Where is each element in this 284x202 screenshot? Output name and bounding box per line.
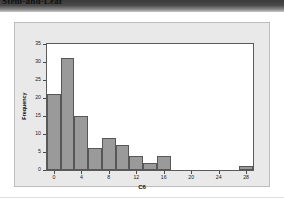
x-tick-label: 0: [52, 175, 55, 180]
x-tick-mark: [54, 171, 55, 174]
histogram-bar: [102, 138, 116, 170]
y-tick-mark: [43, 152, 46, 153]
plot-area: [46, 43, 254, 171]
y-tick-mark: [43, 44, 46, 45]
x-tick-label: 12: [133, 175, 139, 180]
chart-panel: 05101520253035 0481216202428 Frequency C…: [14, 22, 270, 187]
histogram-bar: [61, 58, 75, 170]
x-tick-mark: [191, 171, 192, 174]
x-tick-label: 20: [188, 175, 194, 180]
y-tick-mark: [43, 62, 46, 63]
screenshot-root: Stem-and-Leaf 05101520253035 04812162024…: [0, 0, 284, 202]
histogram-bar: [143, 163, 157, 170]
y-tick-mark: [43, 116, 46, 117]
y-tick-label: 5: [38, 149, 41, 154]
x-tick-label: 24: [216, 175, 222, 180]
x-axis-label: C6: [15, 184, 269, 190]
y-tick-label: 20: [35, 95, 41, 100]
y-tick-mark: [43, 80, 46, 81]
y-tick-mark: [43, 170, 46, 171]
banner-title: Stem-and-Leaf: [2, 0, 62, 6]
x-tick-mark: [109, 171, 110, 174]
x-tick-label: 28: [243, 175, 249, 180]
y-tick-label: 0: [38, 167, 41, 172]
y-axis-label: Frequency: [21, 84, 27, 128]
x-tick-mark: [246, 171, 247, 174]
y-tick-label: 15: [35, 113, 41, 118]
histogram-bar: [47, 94, 61, 170]
histogram-bar: [129, 156, 143, 170]
y-tick-mark: [43, 134, 46, 135]
x-tick-mark: [136, 171, 137, 174]
y-tick-label: 30: [35, 59, 41, 64]
y-tick-label: 25: [35, 77, 41, 82]
x-tick-mark: [164, 171, 165, 174]
x-tick-mark: [81, 171, 82, 174]
histogram-bar: [88, 148, 102, 170]
histogram-bar: [157, 156, 171, 170]
y-tick-mark: [43, 98, 46, 99]
section-banner: Stem-and-Leaf: [0, 0, 284, 12]
y-tick-label: 10: [35, 131, 41, 136]
page-bottom-edge: [0, 197, 284, 202]
x-tick-mark: [219, 171, 220, 174]
x-tick-label: 4: [80, 175, 83, 180]
x-tick-label: 16: [161, 175, 167, 180]
histogram-bar: [239, 166, 253, 170]
x-tick-label: 8: [107, 175, 110, 180]
y-tick-label: 35: [35, 41, 41, 46]
bars-layer: [47, 44, 253, 170]
histogram-bar: [116, 145, 130, 170]
histogram-bar: [74, 116, 88, 170]
